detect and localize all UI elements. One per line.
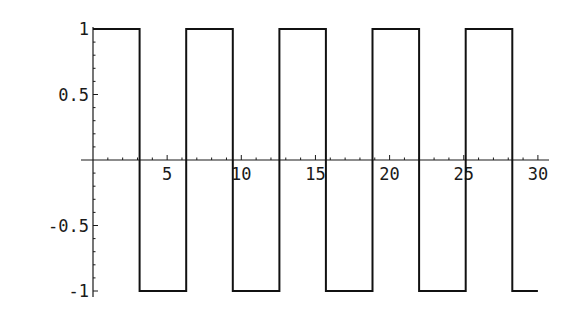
x-tick-label: 10 [231,164,251,184]
square-wave-chart: 5101520253010.5-0.5-1 [0,0,582,319]
x-tick-label: 15 [305,164,325,184]
y-tick-label: -1 [69,281,89,301]
x-tick-label: 25 [454,164,474,184]
x-tick-label: 5 [162,164,172,184]
y-tick-label: -0.5 [48,216,89,236]
y-tick-label: 0.5 [58,85,89,105]
y-tick-label: 1 [79,19,89,39]
x-tick-label: 20 [379,164,399,184]
axes [81,27,549,297]
x-tick-label: 30 [528,164,548,184]
